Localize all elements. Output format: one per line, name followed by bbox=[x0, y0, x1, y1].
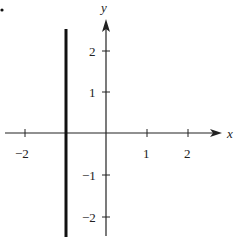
y-axis-label: y bbox=[99, 0, 107, 15]
coordinate-plane: x y −2 1 2 2 1 −1 −2 bbox=[0, 0, 245, 242]
x-tick-label: 2 bbox=[184, 146, 191, 161]
x-axis-label: x bbox=[226, 126, 233, 141]
y-tick-label: 1 bbox=[89, 85, 96, 100]
x-tick-label: −2 bbox=[15, 146, 29, 161]
y-tick-label: −1 bbox=[82, 168, 96, 183]
x-tick-label: 1 bbox=[143, 146, 150, 161]
y-tick-label: −2 bbox=[82, 210, 96, 225]
corner-dot bbox=[0, 8, 3, 11]
y-tick-label: 2 bbox=[89, 44, 96, 59]
